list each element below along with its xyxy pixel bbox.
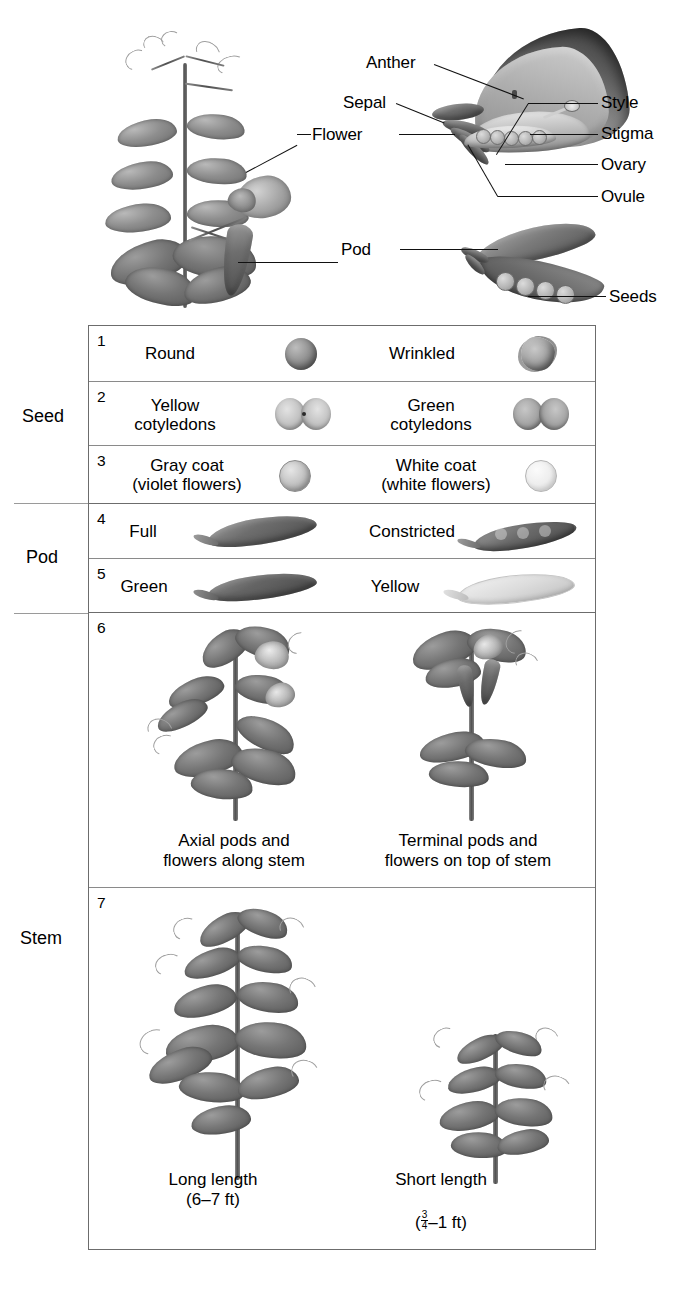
terminal-plant-icon [389, 629, 559, 825]
traits-table: 1 Round Wrinkled 2 Yellow cotyledons Gre… [88, 325, 596, 1250]
leader-stigma [530, 134, 598, 135]
label-sepal: Sepal [343, 93, 386, 112]
trait-label-dominant: Green [99, 577, 189, 596]
row-number: 7 [97, 894, 106, 912]
table-row: 4 Full Constricted [89, 504, 595, 559]
trait-sublabel-recessive: (34–1 ft) [341, 1190, 541, 1233]
round-seed-icon [285, 338, 317, 370]
whole-plant-illustration [95, 28, 305, 313]
group-label-pod: Pod [26, 547, 58, 568]
trait-label-dominant: Long length [113, 1170, 313, 1190]
split-pod-illustration [452, 228, 632, 310]
leader-pod-plant [238, 262, 338, 263]
label-ovary: Ovary [601, 155, 646, 174]
trait-label-recessive: White coat (white flowers) [341, 456, 531, 495]
table-row: 7 [89, 888, 595, 1246]
trait-label-recessive: Yellow [347, 577, 443, 596]
table-row: 3 Gray coat (violet flowers) White coat … [89, 446, 595, 504]
white-coat-seed-icon [525, 460, 557, 492]
fraction-suffix: –1 ft [428, 1213, 461, 1232]
short-plant-icon [411, 1016, 579, 1186]
leader-seeds [528, 296, 606, 297]
trait-label-dominant: Axial pods and flowers along stem [129, 831, 339, 871]
green-cotyledons-icon [513, 398, 569, 430]
leader-ovary [505, 164, 598, 165]
label-ovule: Ovule [601, 187, 645, 206]
trait-label-recessive: Short length [341, 1170, 541, 1190]
leader-flower-big [399, 134, 455, 135]
trait-label-dominant: Gray coat (violet flowers) [97, 456, 277, 495]
trait-label-dominant: Round [105, 344, 235, 363]
wrinkled-seed-icon [521, 337, 555, 371]
leader-pod-to-art [400, 249, 498, 250]
label-pod: Pod [341, 240, 371, 259]
trait-sublabel-dominant: (6–7 ft) [113, 1190, 313, 1210]
leader-style [528, 103, 598, 104]
yellow-cotyledons-icon [275, 398, 331, 430]
group-rule-pod-stem [14, 613, 90, 614]
label-style: Style [601, 93, 638, 112]
trait-label-recessive: Wrinkled [357, 344, 487, 363]
table-row: 5 Green Yellow [89, 559, 595, 613]
label-flower: Flower [312, 125, 362, 144]
figure-page: Anther Sepal Flower Style Stigma Ovary O… [0, 0, 685, 1299]
trait-label-dominant: Full [103, 522, 183, 541]
table-row: 1 Round Wrinkled [89, 326, 595, 382]
yellow-pod-icon [441, 569, 581, 609]
group-label-seed: Seed [22, 406, 64, 427]
dissected-flower-illustration [438, 30, 638, 210]
paren-close: ) [461, 1213, 467, 1232]
tall-plant-icon [139, 910, 329, 1182]
green-pod-icon [193, 569, 319, 607]
pea-anatomy-panel: Anther Sepal Flower Style Stigma Ovary O… [0, 0, 685, 318]
trait-label-dominant: Yellow cotyledons [105, 396, 245, 435]
table-row: 6 [89, 613, 595, 888]
label-stigma: Stigma [601, 124, 653, 143]
axial-plant-icon [147, 623, 327, 823]
full-pod-icon [193, 512, 319, 552]
gray-coat-seed-icon [279, 460, 311, 492]
leader-ovule [498, 196, 598, 197]
group-label-stem: Stem [20, 928, 62, 949]
label-anther: Anther [366, 53, 416, 72]
constricted-pod-icon [455, 514, 587, 556]
row-number: 6 [97, 619, 106, 637]
group-rule-seed-pod [14, 503, 90, 504]
trait-label-recessive: Green cotyledons [361, 396, 501, 435]
label-seeds: Seeds [609, 287, 657, 306]
leader-flower-plant-h [297, 134, 311, 135]
trait-label-recessive: Terminal pods and flowers on top of stem [351, 831, 585, 871]
table-row: 2 Yellow cotyledons Green cotyledons [89, 382, 595, 446]
